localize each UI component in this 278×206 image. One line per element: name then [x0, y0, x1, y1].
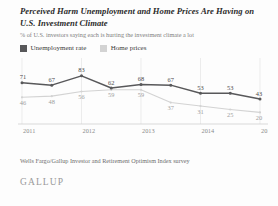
- data-label: 83: [78, 66, 84, 73]
- data-label: 68: [138, 75, 144, 82]
- data-label: 31: [197, 108, 203, 115]
- x-axis-tick-2011: 2011: [23, 127, 35, 134]
- legend-swatch-unemployment-icon: [20, 45, 27, 52]
- data-point: [229, 92, 232, 95]
- data-point: [21, 81, 24, 84]
- data-point: [80, 74, 83, 77]
- x-axis-tick-2014: 2014: [202, 127, 215, 134]
- data-point: [199, 92, 202, 95]
- data-label: 46: [20, 99, 26, 106]
- data-label: 56: [78, 93, 84, 100]
- legend-label-home-prices: Home prices: [111, 44, 147, 52]
- line-chart-plot: 4648565959373125207167836268675353432011…: [18, 56, 268, 142]
- x-axis-tick-2012: 2012: [83, 127, 96, 134]
- data-label: 53: [197, 84, 203, 91]
- data-label: 25: [227, 111, 233, 118]
- data-label: 20: [256, 114, 262, 121]
- legend-swatch-home-prices-icon: [100, 45, 107, 52]
- legend-label-unemployment: Unemployment rate: [31, 44, 87, 52]
- legend-item-unemployment-rate[interactable]: Unemployment rate: [20, 44, 86, 52]
- gallup-logo: GALLUP: [20, 177, 64, 187]
- legend-item-home-prices[interactable]: Home prices: [100, 44, 146, 52]
- page-title: Perceived Harm Unemployment and Home Pri…: [20, 6, 264, 29]
- data-point: [50, 84, 53, 87]
- data-label: 62: [108, 79, 114, 86]
- chart-subtitle: % of U.S. investors saying each is hurti…: [20, 31, 268, 39]
- data-point: [110, 87, 113, 90]
- data-label: 67: [168, 76, 175, 83]
- chart-page: Perceived Harm Unemployment and Home Pri…: [0, 0, 278, 206]
- data-label: 48: [49, 98, 55, 105]
- x-axis-tick-2015: 2015: [261, 127, 268, 134]
- data-label: 59: [108, 91, 114, 98]
- x-axis-tick-2013: 2013: [142, 127, 155, 134]
- data-point: [169, 84, 172, 87]
- source-note: Wells Fargo/Gallup Investor and Retireme…: [20, 157, 190, 164]
- data-label: 43: [256, 90, 262, 97]
- data-label: 59: [138, 91, 144, 98]
- chart-legend: Unemployment rate Home prices: [20, 44, 146, 52]
- data-label: 53: [227, 84, 233, 91]
- data-point: [140, 83, 143, 86]
- data-label: 67: [49, 76, 56, 83]
- data-label: 71: [20, 73, 26, 80]
- data-point: [259, 98, 262, 101]
- data-label: 37: [168, 104, 175, 111]
